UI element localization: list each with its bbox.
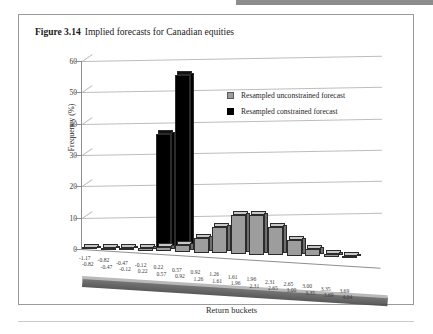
bar [324, 254, 339, 257]
legend-swatch-constrained [227, 108, 234, 115]
y-axis-tick [75, 249, 81, 250]
bar-face [324, 254, 339, 257]
bar-face [249, 215, 264, 254]
bar-face [231, 215, 246, 254]
bar-side [357, 254, 361, 256]
bar [82, 248, 97, 249]
bar [101, 248, 116, 250]
bar [156, 247, 171, 251]
bar-face [138, 248, 153, 251]
x-axis-tick-label: -0.47-0.12 [116, 260, 131, 273]
bar-face [305, 249, 320, 257]
legend-swatch-unconstrained [227, 92, 234, 99]
x-axis-tick-label: 0.220.57 [153, 264, 166, 277]
bar-face [194, 238, 209, 252]
chart-plot-area: 0102030405060 Frequency (%) -1.17-0.82-0… [59, 57, 404, 287]
bar [268, 227, 283, 255]
bar-side [190, 73, 194, 250]
bar [287, 240, 302, 256]
page-bottom-rule [18, 321, 414, 322]
x-axis-tick-label: 3.694.04 [339, 288, 352, 301]
bar [249, 215, 264, 254]
bar [175, 245, 190, 252]
bar-face [175, 245, 190, 252]
bar [119, 248, 134, 250]
bar-side [339, 252, 343, 255]
x-axis-tick-label: -1.17-0.82 [79, 255, 94, 268]
x-axis-tick-label: 3.353.69 [321, 286, 334, 299]
bar-face [119, 248, 134, 250]
x-axis-tick-label: -0.82-0.47 [98, 257, 113, 270]
x-axis-tick-label: 1.611.96 [228, 274, 241, 287]
figure-caption: Figure 3.14Implied forecasts for Canadia… [35, 27, 234, 37]
y-axis-tick [75, 155, 81, 156]
page-header-bar [236, 0, 433, 5]
y-axis-tick [75, 124, 81, 125]
figure-title: Implied forecasts for Canadian equities [85, 27, 234, 37]
legend-item: Resampled constrained forecast [227, 107, 402, 116]
bar [231, 215, 246, 254]
x-axis-tick-label: 0.921.26 [191, 269, 204, 282]
bar [194, 238, 209, 252]
x-axis-tick-label: 2.653.00 [284, 281, 297, 294]
chart-legend: Resampled unconstrained forecast Resampl… [227, 91, 402, 123]
bar-face [175, 75, 190, 252]
bar-face [156, 247, 171, 251]
bar [138, 248, 153, 251]
y-axis-tick [75, 218, 81, 219]
bar-face [156, 134, 171, 252]
x-axis-tick-label: -0.120.22 [135, 262, 148, 275]
bar-face [287, 240, 302, 256]
bar [156, 134, 171, 252]
legend-label-constrained: Resampled constrained forecast [241, 107, 338, 116]
bar [175, 75, 190, 252]
figure-number: Figure 3.14 [35, 27, 81, 37]
x-axis-title: Return buckets [59, 305, 404, 315]
x-axis-tick-label: 2.312.65 [265, 279, 278, 292]
bar [212, 227, 227, 253]
x-axis-tick-label: 3.003.35 [302, 283, 315, 296]
bar-face [212, 227, 227, 253]
legend-label-unconstrained: Resampled unconstrained forecast [241, 91, 345, 100]
figure-frame: Figure 3.14Implied forecasts for Canadia… [18, 14, 414, 305]
legend-item: Resampled unconstrained forecast [227, 91, 402, 100]
bar [305, 249, 320, 257]
bar [342, 256, 357, 257]
bar-face [268, 227, 283, 255]
x-axis-tick-label: 1.261.61 [209, 271, 222, 284]
x-axis-tick-label: 0.570.92 [172, 267, 185, 280]
x-axis-tick-label: 1.962.31 [246, 276, 259, 289]
y-axis-tick [75, 186, 81, 187]
